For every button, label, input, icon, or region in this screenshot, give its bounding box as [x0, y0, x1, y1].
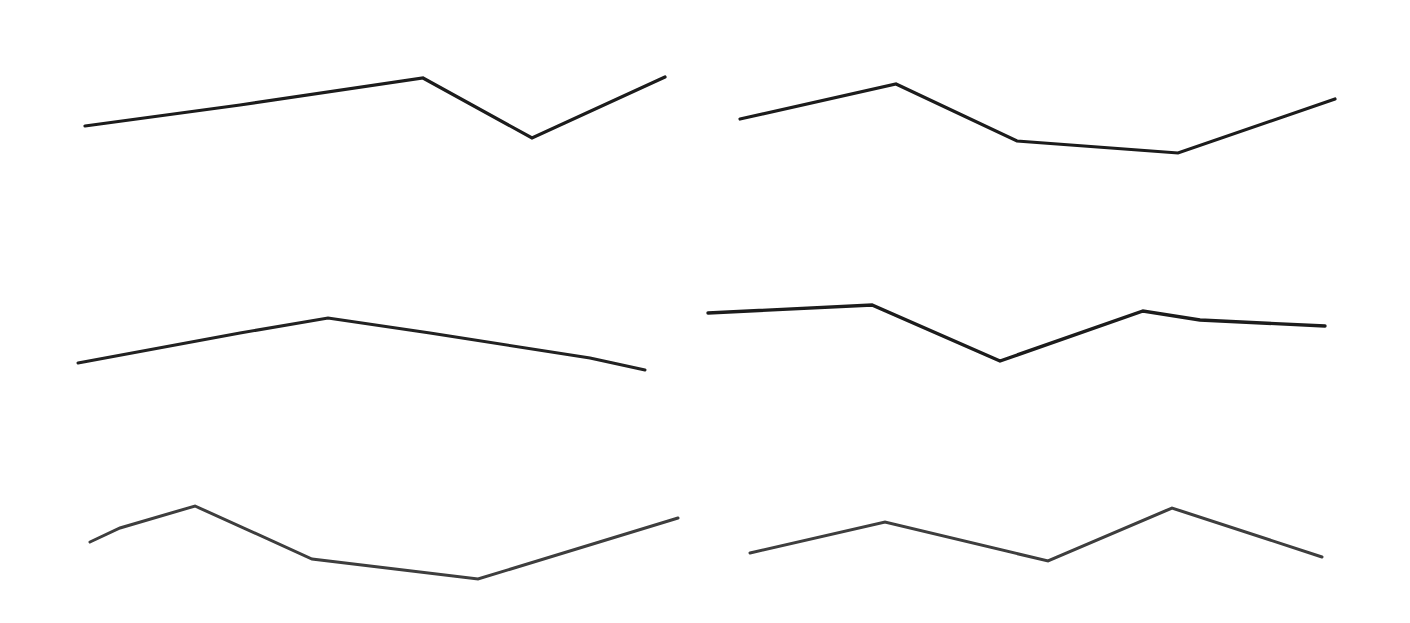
sparkline-grid: [0, 0, 1410, 623]
sparkline-bottom-right: [750, 508, 1322, 561]
sparkline-middle-left: [78, 318, 645, 370]
sparkline-bottom-left: [90, 506, 678, 579]
sparkline-top-left: [85, 77, 665, 138]
sparkline-top-right: [740, 84, 1335, 153]
sparkline-middle-right: [708, 305, 1325, 361]
